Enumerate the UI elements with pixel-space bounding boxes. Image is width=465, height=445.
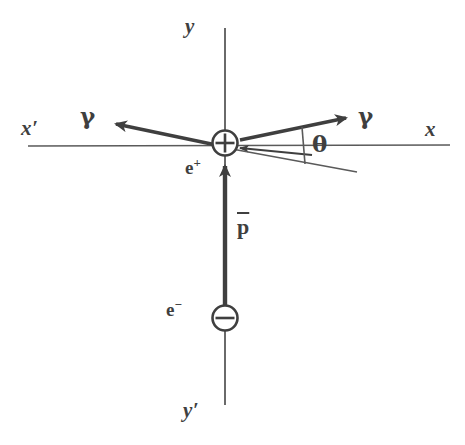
recoil-left-arrow: [240, 148, 312, 155]
positron-label: e+: [185, 158, 201, 177]
photon-label-right-gamma: γ: [358, 104, 373, 127]
x-axis-line: [28, 145, 450, 146]
figure-canvas: [0, 0, 465, 445]
angle-label-theta: θ: [312, 132, 327, 155]
axis-label-x-prime: x′: [21, 118, 38, 139]
electron-charge-sign: −: [174, 297, 181, 312]
axis-label-y-prime: y′: [183, 400, 199, 421]
momentum-label-p-bar: p: [237, 216, 249, 238]
electron-label: e−: [166, 300, 182, 319]
photon-label-left-gamma: γ: [80, 104, 95, 127]
axis-label-y: y: [185, 16, 195, 37]
positron-charge-sign: +: [193, 155, 200, 170]
gamma-right-arrow: [240, 118, 346, 140]
annihilation-diagram: y y′ x x′ γ γ θ e+ e− p: [0, 0, 465, 445]
axis-label-x: x: [425, 119, 436, 140]
gamma-left-arrow: [116, 124, 221, 146]
positron-node: [213, 131, 238, 156]
electron-node: [213, 306, 238, 331]
